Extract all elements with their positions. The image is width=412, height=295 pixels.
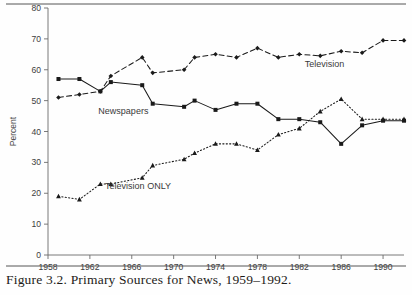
data-point-newspapers [297,117,301,121]
data-point-television [339,49,344,54]
data-point-television-only [318,109,323,114]
y-tick-label: 60 [31,65,41,75]
y-axis-title: Percent [8,116,18,146]
y-tick-label: 30 [31,157,41,167]
data-point-television-only [77,197,82,202]
y-tick-label: 50 [31,96,41,106]
data-point-television-only [150,163,155,168]
data-point-television [192,55,197,60]
data-point-television [77,92,82,97]
data-point-newspapers [276,117,280,121]
data-point-newspapers [109,80,113,84]
data-point-newspapers [214,108,218,112]
x-tick-label: 1990 [373,262,392,272]
figure-caption: Figure 3.2. Primary Sources for News, 19… [6,272,406,288]
data-point-television [150,71,155,76]
series-label-television-only: Television ONLY [105,181,171,191]
chart-canvas: 01020304050607080Percent1958196219661970… [0,0,412,295]
data-point-television [56,95,61,100]
data-point-television [276,55,281,60]
figure-container: 01020304050607080Percent1958196219661970… [0,0,412,295]
y-tick-label: 70 [31,34,41,44]
data-point-television-only [276,132,281,137]
data-point-newspapers [318,120,322,124]
x-tick-label: 1970 [164,262,183,272]
data-point-television [318,54,323,59]
data-point-television-only [192,151,197,156]
data-point-newspapers [234,102,238,106]
data-point-newspapers [56,77,60,81]
data-point-newspapers [339,142,343,146]
data-point-television-only [182,157,187,162]
data-point-television [360,50,365,55]
data-point-television-only [56,194,61,199]
data-point-television-only [339,96,344,101]
data-point-newspapers [77,77,81,81]
series-label-newspapers: Newspapers [98,106,149,116]
data-point-newspapers [98,89,102,93]
data-point-newspapers [255,102,259,106]
data-point-newspapers [151,102,155,106]
data-point-newspapers [193,99,197,103]
y-tick-label: 20 [31,188,41,198]
x-tick-label: 1966 [122,262,141,272]
series-line-television [58,40,404,97]
x-tick-label: 1978 [248,262,267,272]
x-tick-label: 1962 [80,262,99,272]
data-point-television [381,38,386,43]
x-tick-label: 1974 [206,262,225,272]
x-tick-label: 1982 [290,262,309,272]
y-tick-label: 40 [31,127,41,137]
x-tick-label: 1958 [38,262,57,272]
data-point-television [297,52,302,57]
data-point-newspapers [182,105,186,109]
data-point-newspapers [140,83,144,87]
x-tick-label: 1986 [332,262,351,272]
data-point-television [213,52,218,57]
data-point-television [234,55,239,60]
series-label-television: Television [305,59,345,69]
y-tick-label: 80 [31,3,41,13]
data-point-television-only [234,141,239,146]
data-point-television [402,38,407,43]
y-tick-label: 0 [36,250,41,260]
data-point-television [255,46,260,51]
y-tick-label: 10 [31,219,41,229]
data-point-newspapers [360,123,364,127]
